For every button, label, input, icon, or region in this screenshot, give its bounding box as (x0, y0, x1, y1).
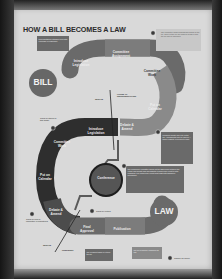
senate-step-committee-work: Committee Work (51, 141, 73, 148)
senate-step-introduce: Introduce Legislation (84, 128, 108, 135)
bill-label: BILL (29, 77, 57, 87)
failure-marker-icon (90, 209, 94, 213)
publication-note: The bill is officially published as law. (132, 247, 162, 259)
president-label: PRESIDENT (62, 249, 73, 251)
legend-marker-icon (168, 256, 172, 260)
committee-note: The committee holds hearings and marks u… (157, 29, 201, 51)
senate-step-debate: Debate & Amend (45, 209, 67, 216)
legend-label: Chance for failure (174, 257, 190, 259)
house-step-debate: Debate & Amend (116, 124, 138, 131)
failure-marker-icon (156, 130, 160, 134)
senate-bottom-label: SENATE (43, 244, 51, 246)
house-path-right (120, 70, 168, 128)
law-label: LAW (150, 206, 178, 216)
final-step-publication: Publication (108, 228, 136, 232)
debate-note: Members debate and vote on the bill. Ame… (161, 132, 193, 164)
senate-hold-note: Could be stalled in this phase (40, 117, 58, 122)
failure-marker-icon (51, 126, 55, 130)
conference-note: The conference committee works out the d… (126, 166, 184, 193)
conference-label: Conference (91, 177, 121, 181)
senate-top-label: SENATE (95, 98, 103, 100)
house-step-introduce: Introduce Legislation (70, 60, 92, 67)
final-step-approval: Final Approval (76, 226, 98, 233)
poster-title: HOW A BILL BECOMES A LAW (23, 25, 126, 34)
house-step-committee-work: Committee Work (140, 70, 164, 77)
senate-step-calendar: Put on Calendar (37, 174, 53, 181)
intro-note: Representatives introduce a bill with a … (37, 36, 69, 51)
failure-marker-icon (30, 212, 34, 216)
failure-marker-icon (151, 31, 155, 35)
veto-note: Could be vetoed (96, 210, 111, 212)
president-note: The president signs or vetoes the bill. (85, 249, 113, 261)
senate-debate-note: Could be held in committee or filibuster… (26, 218, 48, 223)
house-step-committee-assignment: Committee Assignment (108, 51, 134, 58)
house-label: HOUSE OF REPRESENTATIVES (117, 93, 141, 98)
house-step-calendar: Put on Calendar (146, 104, 164, 111)
